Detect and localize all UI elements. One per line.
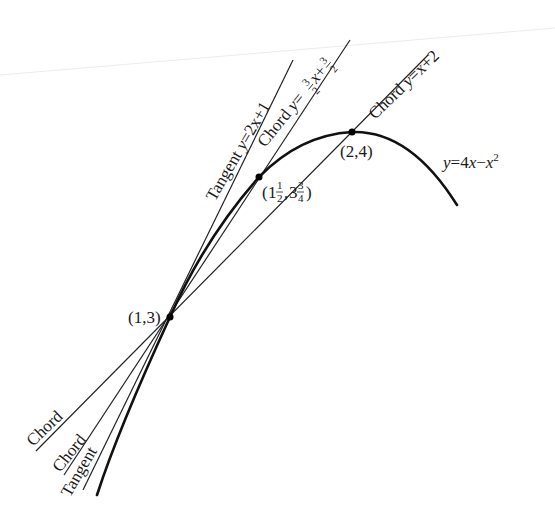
point-2-4	[349, 129, 356, 136]
curve-equation-label: y=4x−x2	[441, 151, 499, 172]
chord-line-y-eq-three-halves-x	[64, 40, 350, 475]
svg-text:y=4x−x2: y=4x−x2	[441, 151, 499, 172]
point-1.5-3.75	[256, 174, 263, 181]
point-1-3	[167, 314, 174, 321]
svg-text:4: 4	[298, 192, 304, 204]
chord-far-equation-label: Chord y=x+2	[365, 46, 443, 123]
chord-far-low-label: Chord	[23, 406, 67, 450]
svg-text:2: 2	[277, 192, 283, 204]
point-label-2-4: (2,4)	[340, 142, 373, 161]
background-artifact-line	[0, 28, 555, 75]
point-label-1-3: (1,3)	[128, 308, 161, 327]
svg-text:1: 1	[277, 179, 283, 191]
svg-text:,: ,	[284, 183, 288, 202]
tangent-chord-diagram: (1,3) (2,4) ( 1 1 2 , 3 3 4 ) y=4x−x2 Ta…	[0, 0, 555, 522]
svg-text:Chord: Chord	[23, 406, 67, 450]
svg-text:1: 1	[268, 183, 277, 202]
svg-text:3: 3	[298, 179, 304, 191]
svg-text:Chord y=x+2: Chord y=x+2	[365, 46, 443, 123]
svg-text:): )	[306, 183, 312, 202]
point-label-1.5-3.75: ( 1 1 2 , 3 3 4 )	[262, 179, 312, 204]
svg-text:3: 3	[289, 183, 298, 202]
